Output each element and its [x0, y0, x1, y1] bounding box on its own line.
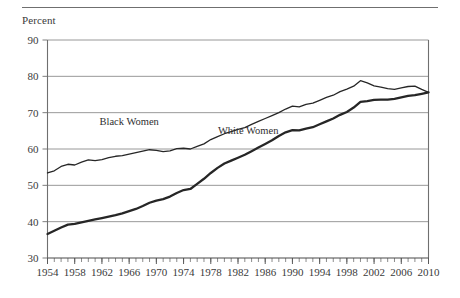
- y-axis-tick-label: 40: [28, 216, 40, 228]
- series-line-white-women: [48, 92, 429, 234]
- series-label-white-women: White Women: [218, 125, 279, 136]
- x-axis-tick-label: 1974: [173, 266, 196, 278]
- x-axis-tick-label: 2002: [363, 266, 385, 278]
- y-axis-tick-label: 50: [28, 179, 40, 191]
- line-chart-plot: 30405060708090 1954195819621966197019741…: [0, 0, 460, 298]
- x-axis-tick-label: 1954: [37, 266, 60, 278]
- x-axis-tick-label: 1958: [64, 266, 87, 278]
- x-axis-tick-label: 1962: [91, 266, 113, 278]
- x-axis-tick-labels-group: 1954195819621966197019741978198219861990…: [37, 266, 441, 278]
- x-axis-tick-label: 1978: [200, 266, 223, 278]
- x-axis-tick-label: 2010: [418, 266, 441, 278]
- x-axis-major-ticks-group: [48, 258, 429, 264]
- data-series-group: [48, 81, 429, 234]
- x-axis-tick-label: 1998: [336, 266, 359, 278]
- figure-container: Percent 30405060708090 19541958196219661…: [0, 0, 460, 298]
- series-label-black-women: Black Women: [99, 116, 159, 127]
- x-axis-tick-label: 1990: [281, 266, 304, 278]
- y-axis-tick-label: 30: [28, 252, 40, 264]
- y-axis-tick-labels-group: 30405060708090: [28, 34, 40, 264]
- y-axis-ticks-group: [43, 40, 48, 258]
- series-annotations-group: Black WomenWhite Women: [99, 116, 279, 136]
- y-axis-tick-label: 80: [28, 70, 40, 82]
- x-axis-tick-label: 1966: [118, 266, 141, 278]
- y-axis-tick-label: 90: [28, 34, 40, 46]
- x-axis-tick-label: 1986: [254, 266, 277, 278]
- x-axis-tick-label: 1982: [227, 266, 249, 278]
- x-axis-tick-label: 2006: [390, 266, 413, 278]
- y-axis-tick-label: 70: [28, 107, 40, 119]
- x-axis-tick-label: 1994: [309, 266, 332, 278]
- y-axis-tick-label: 60: [28, 143, 40, 155]
- x-axis-tick-label: 1970: [145, 266, 168, 278]
